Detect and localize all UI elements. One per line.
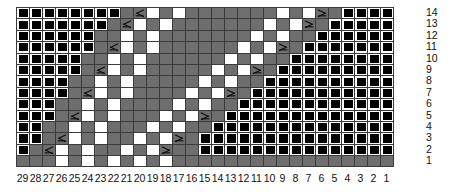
cell-knit: [134, 99, 147, 110]
cell-no-stitch: [329, 30, 342, 41]
cell-purl: [121, 30, 134, 41]
cell-knit: [264, 8, 277, 19]
cell-no-stitch: [329, 110, 342, 121]
cell-no-stitch: [303, 76, 316, 87]
cell-no-stitch: [316, 42, 329, 53]
cell-knit: [173, 19, 186, 30]
cell-purl: [147, 8, 160, 19]
cell-no-stitch: [251, 121, 264, 132]
cell-no-stitch: [238, 110, 251, 121]
no-stitch-square-icon: [383, 43, 392, 51]
cell-knit: [69, 87, 82, 98]
cell-knit: [290, 30, 303, 41]
no-stitch-square-icon: [357, 21, 366, 29]
cell-knit: [108, 133, 121, 144]
cell-knit: [199, 42, 212, 53]
no-stitch-square-icon: [344, 9, 353, 17]
no-stitch-square-icon: [331, 66, 340, 74]
cell-no-stitch: [43, 53, 56, 64]
cell-no-stitch: [303, 87, 316, 98]
cell-knit: [186, 30, 199, 41]
cell-purl: [82, 144, 95, 155]
cell-purl: [238, 64, 251, 75]
no-stitch-square-icon: [292, 89, 301, 97]
cell-knit: [30, 156, 43, 167]
cell-no-stitch: [277, 87, 290, 98]
no-stitch-square-icon: [383, 100, 392, 108]
cell-knit: [147, 156, 160, 167]
cell-no-stitch: [381, 30, 394, 41]
column-number-label: 1: [380, 172, 393, 185]
cell-no-stitch: [368, 19, 381, 30]
no-stitch-square-icon: [305, 66, 314, 74]
cell-no-stitch: [303, 99, 316, 110]
cell-no-stitch: [316, 64, 329, 75]
no-stitch-square-icon: [45, 43, 54, 51]
no-stitch-square-icon: [227, 146, 236, 154]
cell-knit: [290, 156, 303, 167]
cell-knit: [199, 121, 212, 132]
cell-no-stitch: [43, 42, 56, 53]
cell-no-stitch: [212, 133, 225, 144]
no-stitch-square-icon: [344, 55, 353, 63]
cell-no-stitch: [342, 8, 355, 19]
no-stitch-square-icon: [32, 9, 41, 17]
no-stitch-square-icon: [19, 9, 28, 17]
cell-no-stitch: [30, 53, 43, 64]
no-stitch-square-icon: [331, 146, 340, 154]
cell-knit: [186, 144, 199, 155]
cell-purl: [56, 144, 69, 155]
cell-knit: [147, 76, 160, 87]
cell-no-stitch: [225, 110, 238, 121]
no-stitch-square-icon: [71, 43, 80, 51]
cell-no-stitch: [290, 144, 303, 155]
cell-knit: [303, 30, 316, 41]
cell-purl: [147, 42, 160, 53]
cell-knit: [225, 42, 238, 53]
no-stitch-square-icon: [305, 89, 314, 97]
cell-purl: [134, 133, 147, 144]
no-stitch-square-icon: [357, 66, 366, 74]
cell-knit: [160, 64, 173, 75]
no-stitch-square-icon: [253, 100, 262, 108]
no-stitch-square-icon: [318, 55, 327, 63]
cell-no-stitch: [277, 121, 290, 132]
cell-no-stitch: [264, 76, 277, 87]
cell-no-stitch: [303, 64, 316, 75]
cell-decrease-right: [251, 64, 264, 75]
cell-no-stitch: [381, 8, 394, 19]
no-stitch-square-icon: [19, 146, 28, 154]
no-stitch-square-icon: [32, 43, 41, 51]
column-number-label: 9: [276, 172, 289, 185]
no-stitch-square-icon: [19, 134, 28, 142]
no-stitch-square-icon: [266, 123, 275, 131]
cell-no-stitch: [368, 30, 381, 41]
cell-no-stitch: [290, 76, 303, 87]
no-stitch-square-icon: [32, 21, 41, 29]
cell-knit: [121, 64, 134, 75]
cell-knit: [199, 8, 212, 19]
cell-no-stitch: [43, 19, 56, 30]
cell-purl: [264, 19, 277, 30]
cell-decrease-right: [160, 144, 173, 155]
cell-no-stitch: [238, 133, 251, 144]
cell-knit: [82, 76, 95, 87]
cell-purl: [95, 121, 108, 132]
cell-purl: [173, 8, 186, 19]
cell-no-stitch: [290, 121, 303, 132]
no-stitch-square-icon: [305, 112, 314, 120]
no-stitch-square-icon: [32, 78, 41, 86]
decrease-right-icon: [303, 19, 315, 29]
no-stitch-square-icon: [318, 78, 327, 86]
cell-no-stitch: [43, 99, 56, 110]
cell-no-stitch: [56, 64, 69, 75]
cell-no-stitch: [30, 30, 43, 41]
no-stitch-square-icon: [344, 21, 353, 29]
cell-knit: [17, 156, 30, 167]
cell-no-stitch: [238, 99, 251, 110]
column-number-label: 22: [107, 172, 120, 185]
cell-knit: [134, 110, 147, 121]
no-stitch-square-icon: [71, 55, 80, 63]
cell-purl: [173, 121, 186, 132]
cell-no-stitch: [43, 110, 56, 121]
